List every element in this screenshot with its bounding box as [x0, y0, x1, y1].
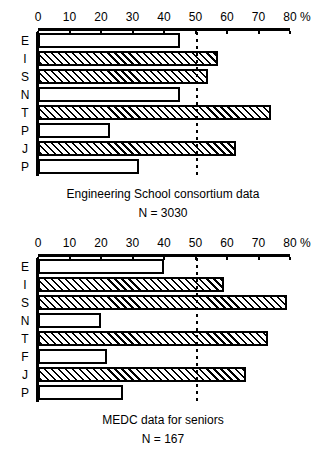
- x-tick-label: 0: [35, 11, 42, 23]
- bar: [38, 349, 107, 364]
- x-axis-top: 01020304050607080%: [0, 0, 326, 32]
- bar-row: I: [0, 50, 326, 68]
- y-axis-label: I: [18, 52, 32, 66]
- x-tick-label: 50: [189, 11, 202, 23]
- x-tick-label: 40: [157, 237, 170, 249]
- x-tick-label: 80: [283, 237, 296, 249]
- x-tick-label: 30: [126, 11, 139, 23]
- y-axis-label: T: [18, 332, 32, 346]
- bar: [38, 385, 123, 400]
- bar: [38, 33, 180, 48]
- bar: [38, 69, 208, 84]
- bar-row: P: [0, 122, 326, 140]
- y-axis-label: S: [18, 70, 32, 84]
- bar: [38, 141, 236, 156]
- bar-row: S: [0, 294, 326, 312]
- bar-row: T: [0, 330, 326, 348]
- y-axis-label: P: [18, 386, 32, 400]
- caption-bottom: MEDC data for seniors N = 167: [0, 402, 326, 449]
- bar: [38, 295, 287, 310]
- bar: [38, 105, 271, 120]
- bar-row: P: [0, 158, 326, 176]
- chart-medc-seniors: 01020304050607080% EISNTFJP MEDC data fo…: [0, 226, 326, 449]
- x-tick-label: 70: [252, 11, 265, 23]
- y-axis-label: E: [18, 260, 32, 274]
- x-tick-label: 20: [94, 237, 107, 249]
- chart-engineering-school: 01020304050607080% EISNTPJP Engineering …: [0, 0, 326, 223]
- y-axis-label: N: [18, 314, 32, 328]
- figure-page: 01020304050607080% EISNTPJP Engineering …: [0, 0, 326, 452]
- bar-row: J: [0, 140, 326, 158]
- y-axis-label: I: [18, 278, 32, 292]
- x-tick-label: 10: [63, 237, 76, 249]
- y-axis-label: F: [18, 350, 32, 364]
- y-axis-label: S: [18, 296, 32, 310]
- bar-row: P: [0, 384, 326, 402]
- bar: [38, 159, 139, 174]
- bar: [38, 331, 268, 346]
- bar-row: N: [0, 312, 326, 330]
- bar-row: E: [0, 32, 326, 50]
- bar: [38, 51, 218, 66]
- y-axis-label: P: [18, 160, 32, 174]
- x-tick-label: 0: [35, 237, 42, 249]
- y-axis-label: J: [18, 142, 32, 156]
- plot-area-top: EISNTPJP: [0, 32, 326, 176]
- x-tick-label: 50: [189, 237, 202, 249]
- bar-row: I: [0, 276, 326, 294]
- x-tick-label: 40: [157, 11, 170, 23]
- bar-row: T: [0, 104, 326, 122]
- x-tick-label: 60: [220, 11, 233, 23]
- caption-title-top: Engineering School consortium data: [67, 187, 260, 201]
- caption-title-bottom: MEDC data for seniors: [102, 413, 223, 427]
- y-axis-label: T: [18, 106, 32, 120]
- reference-line-50-percent: [196, 258, 198, 402]
- y-axis-label: J: [18, 368, 32, 382]
- bar-row: N: [0, 86, 326, 104]
- plot-area-bottom: EISNTFJP: [0, 258, 326, 402]
- bar-row: E: [0, 258, 326, 276]
- x-tick-label: 70: [252, 237, 265, 249]
- percent-symbol: %: [300, 11, 311, 23]
- bar: [38, 367, 246, 382]
- y-axis-label: E: [18, 34, 32, 48]
- x-axis-bottom: 01020304050607080%: [0, 226, 326, 258]
- bar: [38, 123, 110, 138]
- bar: [38, 87, 180, 102]
- x-tick-label: 10: [63, 11, 76, 23]
- bar: [38, 313, 101, 328]
- bar-row: S: [0, 68, 326, 86]
- y-axis-label: P: [18, 124, 32, 138]
- percent-symbol: %: [300, 237, 311, 249]
- x-tick-label: 60: [220, 237, 233, 249]
- bar-row: J: [0, 366, 326, 384]
- caption-n-top: N = 3030: [0, 204, 326, 223]
- bar-row: F: [0, 348, 326, 366]
- y-axis-label: N: [18, 88, 32, 102]
- bar: [38, 259, 164, 274]
- x-tick-label: 80: [283, 11, 296, 23]
- x-tick-label: 30: [126, 237, 139, 249]
- caption-n-bottom: N = 167: [0, 430, 326, 449]
- caption-top: Engineering School consortium data N = 3…: [0, 176, 326, 223]
- reference-line-50-percent: [196, 32, 198, 176]
- x-tick-label: 20: [94, 11, 107, 23]
